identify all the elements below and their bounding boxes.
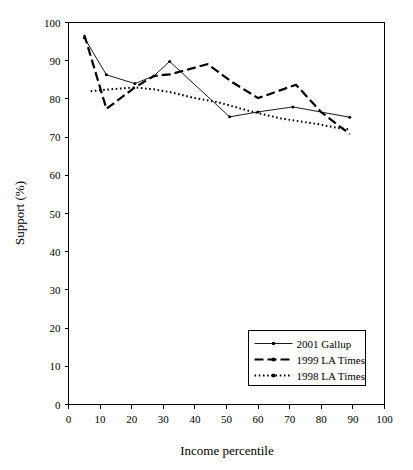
x-tick-label: 30 — [158, 413, 170, 425]
y-tick-label: 10 — [50, 360, 62, 372]
legend-label: 1999 LA Times — [297, 354, 365, 366]
chart-figure: 0102030405060708090100 01020304050607080… — [0, 0, 413, 470]
legend-marker — [271, 373, 275, 377]
y-axis-title: Support (%) — [12, 181, 27, 245]
x-tick-label: 100 — [376, 413, 393, 425]
x-tick-label: 40 — [189, 413, 201, 425]
x-tick-label: 20 — [126, 413, 138, 425]
y-tick-label: 80 — [50, 93, 62, 105]
data-point-marker — [228, 115, 231, 118]
y-tick-label: 20 — [50, 322, 62, 334]
x-tick-label: 70 — [284, 413, 296, 425]
x-tick-label: 50 — [221, 413, 233, 425]
legend-marker — [272, 342, 276, 346]
y-tick-label: 40 — [50, 246, 62, 258]
x-tick-label: 10 — [95, 413, 107, 425]
series-layer — [83, 35, 351, 134]
x-tick-label: 0 — [66, 413, 72, 425]
series-1 — [83, 36, 351, 118]
data-point-marker — [105, 73, 108, 76]
x-tick-label: 60 — [253, 413, 265, 425]
y-axis-ticks: 0102030405060708090100 — [44, 17, 69, 411]
line-chart-svg: 0102030405060708090100 01020304050607080… — [0, 0, 413, 470]
y-tick-label: 50 — [50, 208, 62, 220]
y-tick-label: 30 — [50, 284, 62, 296]
legend-label: 1998 LA Times — [297, 370, 365, 382]
chart-legend: 2001 Gallup1999 LA Times1998 LA Times — [249, 331, 366, 386]
series-line — [84, 35, 349, 134]
y-tick-label: 70 — [50, 131, 62, 143]
y-tick-label: 0 — [55, 399, 61, 411]
y-tick-label: 90 — [50, 55, 62, 67]
data-point-marker — [133, 82, 136, 85]
data-point-marker — [168, 60, 171, 63]
x-axis-ticks: 0102030405060708090100 — [66, 405, 394, 425]
legend-label: 2001 Gallup — [297, 338, 352, 350]
x-axis-title: Income percentile — [180, 443, 274, 458]
data-point-marker — [291, 105, 294, 108]
x-tick-label: 80 — [316, 413, 328, 425]
series-2 — [84, 35, 349, 134]
series-line — [84, 38, 349, 117]
y-tick-label: 60 — [50, 169, 62, 181]
x-tick-label: 90 — [347, 413, 359, 425]
y-tick-label: 100 — [44, 17, 61, 29]
data-point-marker — [348, 116, 351, 119]
legend-marker — [271, 357, 275, 361]
